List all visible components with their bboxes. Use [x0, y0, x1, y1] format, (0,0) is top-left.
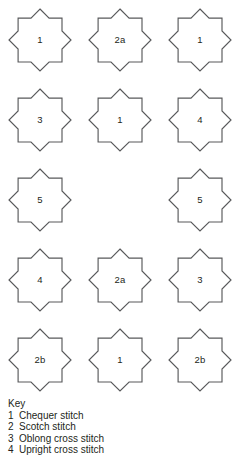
key-entry: 1Chequer stitch [8, 410, 233, 422]
eight-pointed-star-icon [88, 248, 152, 312]
star-cell[interactable]: 2a [88, 8, 152, 72]
key-entry-label: Chequer stitch [19, 410, 83, 421]
star-cell[interactable]: 1 [168, 8, 232, 72]
eight-pointed-star-icon [8, 168, 72, 232]
star-cell[interactable]: 1 [88, 328, 152, 392]
key-entry-label: Upright cross stitch [19, 444, 104, 455]
key-entry-number: 1 [8, 410, 19, 422]
eight-pointed-star-icon [8, 248, 72, 312]
star-cell[interactable]: 2b [8, 328, 72, 392]
eight-pointed-star-icon [8, 328, 72, 392]
key-entry: 3Oblong cross stitch [8, 433, 233, 445]
key-entry-label: Oblong cross stitch [19, 433, 104, 444]
key-legend: Key 1Chequer stitch 2Scotch stitch 3Oblo… [8, 398, 233, 456]
eight-pointed-star-icon [168, 328, 232, 392]
star-grid: 1 2a 1 3 1 4 5 [0, 0, 237, 400]
star-cell[interactable]: 2b [168, 328, 232, 392]
star-cell[interactable]: 5 [168, 168, 232, 232]
eight-pointed-star-icon [88, 328, 152, 392]
star-cell[interactable]: 3 [8, 88, 72, 152]
star-cell[interactable]: 1 [88, 88, 152, 152]
eight-pointed-star-icon [88, 8, 152, 72]
eight-pointed-star-icon [8, 8, 72, 72]
key-entry-label: Scotch stitch [19, 421, 76, 432]
key-entry-number: 3 [8, 433, 19, 445]
key-entry: 2Scotch stitch [8, 421, 233, 433]
key-entry-number: 4 [8, 444, 19, 456]
key-entry: 4Upright cross stitch [8, 444, 233, 456]
eight-pointed-star-icon [168, 248, 232, 312]
eight-pointed-star-icon [8, 88, 72, 152]
key-title: Key [8, 398, 233, 410]
star-cell[interactable]: 1 [8, 8, 72, 72]
star-cell[interactable]: 3 [168, 248, 232, 312]
star-cell[interactable]: 5 [8, 168, 72, 232]
eight-pointed-star-icon [168, 168, 232, 232]
star-cell[interactable]: 4 [8, 248, 72, 312]
star-cell[interactable]: 2a [88, 248, 152, 312]
eight-pointed-star-icon [168, 88, 232, 152]
key-entry-number: 2 [8, 421, 19, 433]
star-cell[interactable]: 4 [168, 88, 232, 152]
eight-pointed-star-icon [88, 88, 152, 152]
eight-pointed-star-icon [168, 8, 232, 72]
star-cell-empty [88, 168, 152, 232]
